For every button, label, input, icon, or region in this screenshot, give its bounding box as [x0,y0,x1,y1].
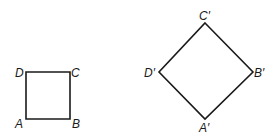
vertex-label-b-prime: B′ [254,66,265,80]
square-a-prime-b-prime-c-prime-d-prime: C′ B′ A′ D′ [144,9,265,135]
vertex-label-d: D [15,66,24,80]
diamond-outline [159,23,253,119]
vertex-label-a-prime: A′ [198,121,210,135]
vertex-label-d-prime: D′ [144,66,156,80]
vertex-label-a: A [14,117,23,131]
vertex-label-b: B [72,117,80,131]
diagram-canvas: D C A B C′ B′ A′ D′ [0,0,280,140]
vertex-label-c-prime: C′ [199,9,211,23]
square-abcd-outline [26,72,70,119]
square-abcd: D C A B [14,66,80,131]
vertex-label-c: C [71,66,80,80]
